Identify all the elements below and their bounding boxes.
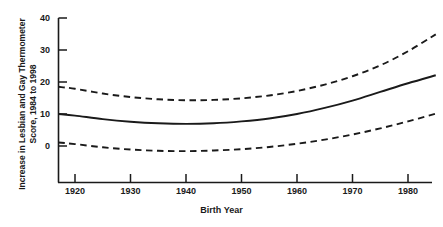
data-curves (58, 34, 435, 151)
lower-confidence-bound-curve (58, 114, 435, 151)
chart-figure: 40 30 20 10 0 1920 1930 1940 1950 1960 1… (0, 0, 443, 227)
y-axis-title-line2: Score, 1984 to 1998 (28, 14, 39, 194)
upper-confidence-bound-curve (58, 34, 435, 100)
fitted-estimate-curve (58, 75, 435, 124)
y-axis-title-line1: Increase in Lesbian and Gay Thermometer (17, 14, 28, 194)
xtick-label-1970: 1970 (333, 186, 373, 196)
xtick-label-1920: 1920 (55, 186, 95, 196)
y-axis-title: Increase in Lesbian and Gay Thermometer … (17, 14, 39, 194)
axis-lines (58, 18, 432, 183)
xtick-label-1950: 1950 (222, 186, 262, 196)
y-tick-marks (59, 18, 68, 146)
x-axis-title: Birth Year (0, 205, 443, 215)
xtick-label-1980: 1980 (388, 186, 428, 196)
xtick-label-1930: 1930 (111, 186, 151, 196)
xtick-label-1960: 1960 (277, 186, 317, 196)
xtick-label-1940: 1940 (166, 186, 206, 196)
x-tick-marks (75, 174, 408, 183)
